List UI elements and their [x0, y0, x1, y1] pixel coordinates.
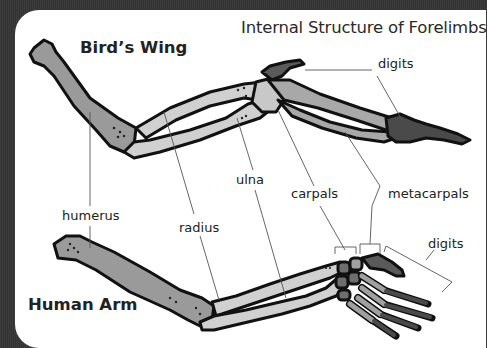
human-arm-heading: Human Arm	[28, 295, 137, 314]
human-carpals	[336, 258, 362, 300]
bird-alula-digit	[262, 60, 304, 80]
label-radius: radius	[179, 220, 219, 235]
label-digits-human: digits	[428, 236, 464, 251]
label-ulna: ulna	[236, 172, 264, 187]
bird-digits	[386, 114, 470, 144]
label-humerus: humerus	[62, 208, 120, 223]
label-digits-bird: digits	[378, 56, 414, 71]
label-metacarpals: metacarpals	[388, 186, 469, 201]
label-carpals: carpals	[291, 186, 338, 201]
human-arm-skeleton	[54, 236, 404, 330]
bird-wing-heading: Bird’s Wing	[80, 38, 187, 57]
diagram-title: Internal Structure of Forelimbs	[241, 18, 487, 37]
human-thumb	[362, 254, 404, 276]
